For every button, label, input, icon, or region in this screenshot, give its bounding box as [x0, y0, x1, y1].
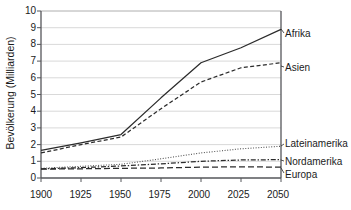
series-line-lateinamerika	[41, 146, 281, 168]
population-line-chart: Bevölkerung (Milliarden) 10 9 8 7 6 5 4 …	[0, 0, 351, 210]
series-line-europa	[41, 167, 281, 169]
gridlines	[41, 11, 281, 161]
series-line-asien	[41, 63, 281, 153]
series-line-afrika	[41, 29, 281, 150]
plot-area	[0, 0, 351, 210]
series-layer	[41, 29, 281, 169]
